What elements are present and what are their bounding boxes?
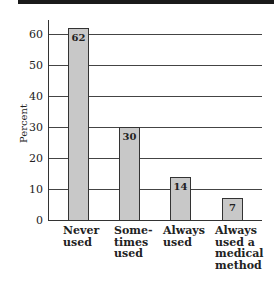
x-category-line: medical	[215, 248, 264, 260]
y-tick-label: 20	[21, 153, 43, 164]
top-rule	[18, 0, 274, 4]
x-category-line: Never	[63, 225, 99, 237]
bar: 14	[170, 177, 191, 221]
bar: 7	[222, 198, 243, 221]
bar-value-label: 14	[171, 181, 190, 192]
x-category-line: used	[114, 248, 152, 260]
x-category-line: used	[63, 237, 99, 249]
x-category-line: Always	[215, 225, 264, 237]
bar: 30	[119, 127, 140, 221]
x-category-label: Some-timesused	[114, 225, 152, 260]
x-category-line: method	[215, 260, 264, 272]
y-tick-label: 0	[21, 215, 43, 226]
y-axis	[48, 20, 49, 220]
y-tick-label: 10	[21, 184, 43, 195]
x-category-line: Always	[163, 225, 205, 237]
x-category-line: used	[163, 237, 205, 249]
bar-value-label: 7	[223, 202, 242, 213]
x-category-label: Alwaysused amedicalmethod	[215, 225, 264, 271]
bar: 62	[68, 28, 89, 221]
y-tick-label: 30	[21, 122, 43, 133]
y-tick-label: 50	[21, 60, 43, 71]
x-category-label: Alwaysused	[163, 225, 205, 248]
y-tick-label: 60	[21, 29, 43, 40]
bar-value-label: 62	[69, 32, 88, 43]
x-category-line: Some-	[114, 225, 152, 237]
bar-value-label: 30	[120, 131, 139, 142]
x-category-label: Neverused	[63, 225, 99, 248]
y-tick-label: 40	[21, 91, 43, 102]
